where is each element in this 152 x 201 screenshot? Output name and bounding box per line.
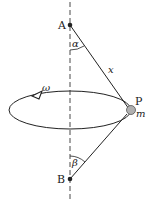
label-mass: m xyxy=(136,108,145,119)
label-b: B xyxy=(57,173,65,186)
string-bp xyxy=(70,114,127,179)
label-a: A xyxy=(57,19,67,32)
point-a xyxy=(68,23,73,28)
label-alpha: α xyxy=(72,38,79,49)
label-beta: β xyxy=(71,157,78,168)
rotation-arrow-icon xyxy=(32,91,42,99)
conical-pendulum-diagram: A B P m α β x ω xyxy=(0,0,152,201)
point-b xyxy=(68,177,73,182)
string-ap xyxy=(70,25,129,109)
label-length: x xyxy=(108,64,114,75)
label-p: P xyxy=(135,95,143,108)
label-omega: ω xyxy=(42,82,50,93)
